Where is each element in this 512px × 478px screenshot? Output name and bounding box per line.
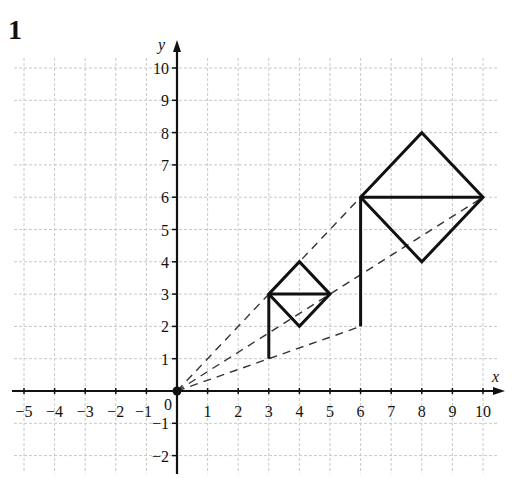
- x-axis-arrow-icon: [493, 387, 505, 395]
- x-tick-label: −1: [135, 403, 152, 420]
- y-axis-arrow-icon: [173, 40, 181, 52]
- x-tick-label: −3: [77, 403, 94, 420]
- y-tick-label: 1: [161, 351, 169, 368]
- y-tick-label: 6: [161, 189, 169, 206]
- origin-label: 0: [164, 396, 172, 413]
- y-tick-label: 3: [161, 286, 169, 303]
- y-tick-label: −1: [152, 415, 169, 432]
- x-tick-label: 1: [204, 403, 212, 420]
- y-tick-label: 7: [161, 157, 169, 174]
- x-tick-label: −5: [15, 403, 32, 420]
- x-tick-label: 2: [234, 403, 242, 420]
- coordinate-grid-figure: xy0−5−4−3−2−112345678910−2−112345678910: [0, 0, 512, 478]
- x-tick-label: 7: [387, 403, 395, 420]
- y-axis-label: y: [156, 36, 166, 54]
- y-tick-label: 4: [161, 254, 169, 271]
- shapes: [173, 133, 484, 396]
- x-tick-label: −2: [107, 403, 124, 420]
- x-tick-label: 6: [357, 403, 365, 420]
- y-tick-label: 5: [161, 222, 169, 239]
- centre-of-enlargement-point: [173, 387, 182, 396]
- x-tick-label: 8: [418, 403, 426, 420]
- y-tick-label: −2: [152, 448, 169, 465]
- x-tick-label: 4: [295, 403, 303, 420]
- y-tick-label: 9: [161, 92, 169, 109]
- y-tick-label: 10: [153, 60, 169, 77]
- y-tick-label: 2: [161, 318, 169, 335]
- x-tick-label: 9: [448, 403, 456, 420]
- x-tick-label: 10: [475, 403, 491, 420]
- x-tick-label: 5: [326, 403, 334, 420]
- y-tick-label: 8: [161, 125, 169, 142]
- x-axis-label: x: [491, 368, 499, 385]
- x-tick-label: −4: [46, 403, 63, 420]
- x-tick-label: 3: [265, 403, 273, 420]
